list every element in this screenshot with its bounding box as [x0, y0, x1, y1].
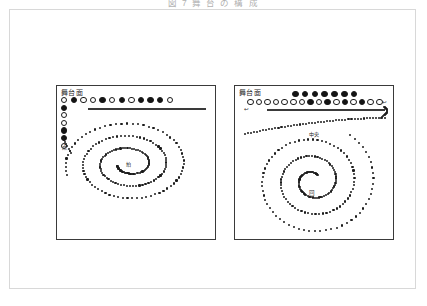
spiral-dot: [287, 125, 289, 127]
spiral-dot: [340, 149, 342, 151]
spiral-dot: [108, 194, 110, 196]
spiral-dot: [326, 120, 328, 122]
spiral-dot: [277, 149, 279, 151]
spiral-dot: [152, 127, 154, 129]
spiral-dot: [157, 176, 159, 178]
spiral-dot: [354, 118, 356, 120]
performer-circle-lower: [281, 99, 288, 106]
spiral-dot: [318, 213, 320, 215]
panel-right-canvas: 舞台面 ↩↩中央回: [235, 86, 393, 239]
spiral-dot: [67, 154, 69, 156]
spiral-dot: [99, 163, 101, 165]
spiral-dot: [358, 142, 360, 144]
spiral-dot: [173, 139, 175, 141]
spiral-dot: [126, 122, 128, 124]
spiral-dot: [350, 219, 352, 221]
spiral-dot: [369, 117, 371, 119]
spiral-dot: [357, 118, 359, 120]
spiral-dot: [66, 174, 68, 176]
spiral-dot: [312, 138, 314, 140]
spiral-dot: [71, 146, 73, 148]
spiral-dot: [350, 118, 352, 120]
spiral-dot: [136, 136, 138, 138]
performer-circle-lower: [273, 99, 280, 106]
spiral-dot: [371, 188, 373, 190]
spiral-dot: [347, 118, 349, 120]
stage-label-left: 舞台面: [61, 89, 83, 97]
spiral-dot: [319, 230, 321, 232]
spiral-dot: [146, 139, 148, 141]
performer-circle: [167, 97, 173, 103]
spiral-dot: [353, 184, 355, 186]
spiral-dot: [261, 181, 263, 183]
spiral-dot: [175, 179, 177, 181]
spiral-dot: [346, 222, 348, 224]
spiral-dot: [178, 146, 180, 148]
performer-circle: [71, 97, 77, 103]
spiral-dot: [318, 196, 320, 198]
spiral-dot: [372, 117, 374, 119]
spiral-dot: [123, 184, 125, 186]
spiral-dot: [293, 124, 295, 126]
spiral-dot: [132, 135, 134, 137]
spiral-dot: [280, 126, 282, 128]
spiral-dot: [299, 123, 301, 125]
spiral-dot: [74, 142, 76, 144]
performer-circle-lower: [299, 99, 306, 106]
performer-circle: [138, 97, 144, 103]
spiral-dot: [259, 130, 261, 132]
spiral-dot: [370, 161, 372, 163]
spiral-dot: [91, 184, 93, 186]
spiral-dot: [362, 146, 364, 148]
spiral-dot: [166, 134, 168, 136]
spiral-dot: [354, 138, 356, 140]
spiral-dot: [98, 141, 100, 143]
spiral-dot: [319, 196, 321, 198]
spiral-dot: [268, 159, 270, 161]
spiral-dot: [181, 152, 183, 154]
spiral-dot: [170, 185, 172, 187]
spiral-dot: [135, 185, 137, 187]
performer-circle: [80, 97, 86, 103]
panel-left-canvas: 舞台面 点 拍: [57, 86, 215, 239]
spiral-dot: [132, 123, 134, 125]
spiral-dot: [298, 228, 300, 230]
performer-circle-lower: [342, 99, 349, 106]
spiral-dot: [362, 207, 364, 209]
spiral-center-label-left: 拍: [125, 161, 132, 167]
spiral-dot: [82, 167, 84, 169]
performer-circle-column: [61, 127, 67, 133]
spiral-dot: [282, 193, 284, 195]
spiral-dot: [143, 137, 145, 139]
spiral-dot: [271, 156, 273, 158]
spiral-dot: [349, 194, 351, 196]
spiral-dot: [384, 117, 386, 119]
spiral-dot: [277, 127, 279, 129]
performer-circle-upper: [351, 91, 358, 98]
spiral-dot: [180, 149, 182, 151]
spiral-dot: [97, 188, 99, 190]
spiral-dot: [325, 141, 327, 143]
spiral-dot: [372, 177, 374, 179]
stage-rule-right: [267, 109, 385, 111]
spiral-dot: [286, 166, 288, 168]
performer-circle: [90, 97, 96, 103]
spiral-dot: [314, 197, 316, 199]
spiral-dot: [332, 209, 334, 211]
spiral-dot: [337, 147, 339, 149]
spiral-dot: [351, 166, 353, 168]
spiral-dot: [280, 184, 282, 186]
spiral-dot: [163, 170, 165, 172]
spiral-dot: [132, 185, 134, 187]
spiral-dot: [120, 123, 122, 125]
spiral-dot: [347, 197, 349, 199]
performer-circle-upper: [331, 91, 338, 98]
spiral-dot: [181, 170, 183, 172]
spiral-dot: [262, 172, 264, 174]
spiral-dot: [247, 132, 249, 134]
spiral-dot: [280, 187, 282, 189]
performer-circle-lower: [307, 99, 314, 106]
spiral-dot: [266, 203, 268, 205]
spiral-dot: [285, 144, 287, 146]
spiral-dot: [116, 135, 118, 137]
